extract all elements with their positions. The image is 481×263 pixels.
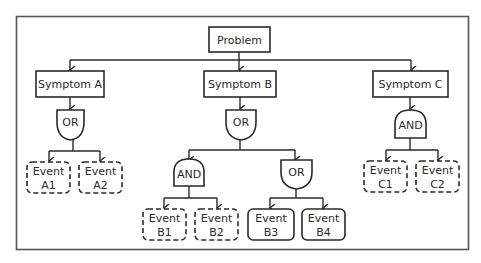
event-b4-line2: B4 — [316, 226, 331, 239]
problem-label: Problem — [217, 34, 262, 47]
symptom-a-node: Symptom A — [36, 71, 104, 97]
fault-tree-diagram: Problem Symptom A Symptom B Symptom C OR… — [0, 0, 481, 263]
symptom-b-label: Symptom B — [208, 78, 272, 91]
event-c2-line2: C2 — [430, 178, 445, 191]
and-gate-b-sub: AND — [174, 159, 204, 186]
event-c1: Event C1 — [364, 161, 407, 192]
connectors-b-or-events — [270, 189, 323, 208]
connectors-b-subgates — [189, 140, 295, 160]
or-gate-b: OR — [226, 110, 256, 140]
symptom-a-label: Symptom A — [38, 78, 102, 91]
and-gate-c-label: AND — [398, 119, 422, 132]
or-gate-b-sub: OR — [281, 160, 312, 189]
event-b3-line2: B3 — [264, 226, 279, 239]
event-b3: Event B3 — [248, 209, 294, 240]
problem-connectors — [70, 52, 411, 70]
problem-node: Problem — [209, 27, 270, 52]
event-b2: Event B2 — [195, 209, 238, 240]
and-gate-c: AND — [395, 110, 426, 138]
or-gate-a: OR — [57, 110, 84, 140]
event-c2: Event C2 — [416, 161, 459, 192]
event-b1: Event B1 — [143, 209, 186, 240]
event-a2-line2: A2 — [93, 179, 108, 192]
event-c1-line2: C1 — [378, 178, 393, 191]
event-a1-line1: Event — [33, 165, 65, 178]
event-b4-line1: Event — [308, 212, 340, 225]
event-b1-line2: B1 — [157, 226, 172, 239]
connectors-b-and-events — [164, 186, 217, 208]
event-b2-line2: B2 — [209, 226, 224, 239]
connectors-a-events — [49, 140, 100, 161]
event-a2: Event A2 — [79, 162, 122, 193]
symptom-c-node: Symptom C — [373, 71, 448, 97]
event-b4: Event B4 — [302, 209, 345, 240]
or-gate-b-label: OR — [233, 116, 250, 129]
event-c2-line1: Event — [422, 164, 454, 177]
event-b2-line1: Event — [201, 212, 233, 225]
event-c1-line1: Event — [370, 164, 402, 177]
or-gate-a-label: OR — [62, 116, 79, 129]
event-b3-line1: Event — [255, 212, 287, 225]
and-gate-b-sub-label: AND — [177, 168, 201, 181]
event-b1-line1: Event — [149, 212, 181, 225]
connectors-c-events — [386, 138, 438, 160]
symptom-c-label: Symptom C — [378, 78, 442, 91]
event-a2-line1: Event — [85, 165, 117, 178]
symptom-b-node: Symptom B — [204, 71, 276, 97]
event-a1: Event A1 — [27, 162, 70, 193]
event-a1-line2: A1 — [41, 179, 56, 192]
or-gate-b-sub-label: OR — [288, 166, 305, 179]
